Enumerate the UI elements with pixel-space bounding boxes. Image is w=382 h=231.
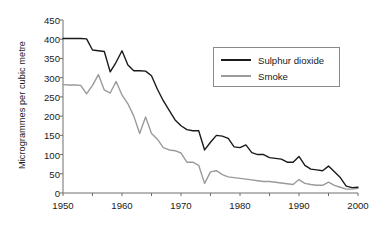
chart-container: Microgrammes per cubic metre 05010015020… xyxy=(0,0,382,231)
series-line-smoke xyxy=(63,75,358,190)
legend-item-smoke: Smoke xyxy=(221,69,288,83)
legend: Sulphur dioxide Smoke xyxy=(213,47,340,87)
legend-label-sulphur-dioxide: Sulphur dioxide xyxy=(258,55,324,66)
legend-item-sulphur-dioxide: Sulphur dioxide xyxy=(221,53,324,67)
legend-label-smoke: Smoke xyxy=(258,71,288,82)
legend-swatch-smoke xyxy=(221,75,251,77)
legend-swatch-sulphur-dioxide xyxy=(221,59,251,61)
plot-area xyxy=(0,0,382,231)
